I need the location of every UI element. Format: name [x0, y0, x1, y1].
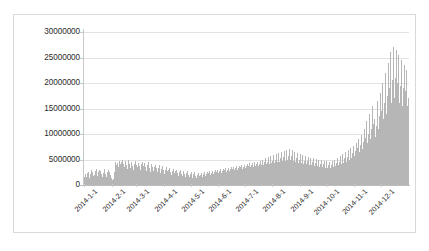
x-axis-tick: [326, 184, 327, 187]
x-tick-label: 2014-8-1: [261, 187, 288, 214]
x-tick-label: 2014-7-1: [233, 187, 260, 214]
y-tick-label: 15000000: [14, 104, 80, 112]
x-axis: 2014-1-12014-2-12014-3-12014-4-12014-5-1…: [84, 187, 409, 232]
y-axis: 0500000010000000150000002000000025000000…: [14, 15, 80, 234]
y-tick-label: 25000000: [14, 53, 80, 61]
bar-series: [84, 32, 409, 185]
y-tick-label: 5000000: [14, 155, 80, 163]
x-axis-tick: [84, 184, 85, 187]
x-axis-tick: [300, 184, 301, 187]
x-tick-label: 2014-11-1: [340, 187, 369, 216]
x-axis-tick: [164, 184, 165, 187]
x-axis-tick: [218, 184, 219, 187]
x-axis-tick: [354, 184, 355, 187]
x-axis-tick: [112, 184, 113, 187]
x-tick-label: 2014-3-1: [125, 187, 152, 214]
x-axis-tick: [136, 184, 137, 187]
x-tick-label: 2014-4-1: [153, 187, 180, 214]
bar: [408, 98, 409, 185]
y-tick-label: 0: [14, 181, 80, 189]
x-tick-label: 2014-6-1: [207, 187, 234, 214]
x-tick-label: 2014-10-1: [312, 187, 342, 217]
chart-frame: 0500000010000000150000002000000025000000…: [13, 14, 416, 233]
x-axis-tick: [272, 184, 273, 187]
x-tick-label: 2014-2-1: [100, 187, 127, 214]
x-tick-label: 2014-5-1: [179, 187, 206, 214]
x-axis-tick: [245, 184, 246, 187]
x-tick-label: 2014-12-1: [366, 187, 396, 217]
y-tick-label: 30000000: [14, 28, 80, 36]
y-tick-label: 10000000: [14, 130, 80, 138]
y-tick-label: 20000000: [14, 79, 80, 87]
x-axis-tick: [191, 184, 192, 187]
x-axis-tick: [381, 184, 382, 187]
plot-area: [84, 32, 409, 186]
